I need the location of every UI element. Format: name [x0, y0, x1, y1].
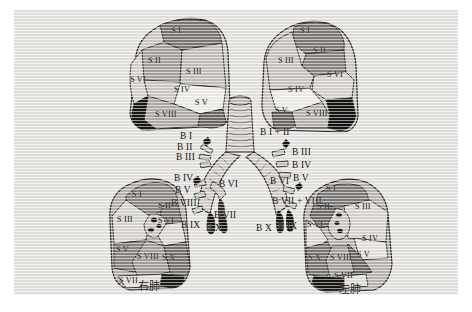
bronchus-label-left-3: B V [293, 174, 309, 183]
lung-anatomy-drawing [14, 10, 458, 295]
segment-label-upper-right-lung-2: S III [278, 57, 294, 65]
segment-label-lower-right-lung-7: S VIII [330, 254, 352, 262]
bronchus-label-right-6: B IX [181, 221, 200, 230]
bronchus-label-right-1: B II [177, 143, 193, 152]
bronchus-label-left-6: B IX [278, 222, 297, 231]
illustration-canvas: S IS IIS IIIS VIS IVS VS VIIIS IS IIS II… [14, 10, 458, 295]
segment-label-upper-left-lung-4: S IV [174, 86, 190, 94]
segment-label-upper-right-lung-0: S I [300, 27, 310, 35]
segment-label-lower-right-lung-2: S III [355, 203, 371, 211]
bronchus-label-right-3: B IV [174, 174, 193, 183]
segment-label-lower-left-lung-5: S VIII [137, 253, 159, 261]
segment-label-lower-right-lung-5: S V [357, 251, 370, 259]
segment-label-upper-right-lung-3: S VI [327, 71, 343, 79]
segment-label-upper-left-lung-0: S I [171, 27, 181, 35]
segment-label-lower-left-lung-1: S II [158, 202, 171, 210]
bronchus-label-right-0: B I [180, 132, 192, 141]
bronchus-label-left-2: B IV [292, 161, 311, 170]
bronchus-label-right-8: B VI [219, 180, 238, 189]
segment-label-lower-left-lung-2: S III [117, 216, 133, 224]
segment-label-upper-right-lung-1: S II [313, 47, 326, 55]
bronchus-label-right-5: B VIII [171, 199, 197, 208]
segment-label-upper-left-lung-2: S III [186, 68, 202, 76]
segment-label-lower-left-lung-0: S I [132, 191, 142, 199]
bronchus-label-left-1: B III [292, 148, 311, 157]
segment-label-upper-right-lung-5: S V [275, 107, 288, 115]
bronchus-label-left-4: B VI [270, 177, 289, 186]
segment-label-upper-left-lung-5: S V [195, 99, 208, 107]
segment-label-lower-left-lung-7: S VII [119, 277, 138, 285]
segment-label-lower-right-lung-6: S X [308, 254, 321, 262]
segment-label-upper-left-lung-1: S II [148, 57, 161, 65]
segment-label-lower-right-lung-8: S VII [334, 272, 353, 280]
segment-label-upper-left-lung-6: S VIII [155, 111, 177, 119]
segment-label-lower-right-lung-0: S I [326, 185, 336, 193]
segment-label-lower-left-lung-4: S V [116, 246, 129, 254]
lower-left-lung-shape [110, 179, 190, 290]
bronchus-label-right-9: B VII [214, 211, 236, 220]
segment-label-lower-left-lung-3: S VI [158, 217, 174, 225]
bronchus-label-left-0: B I + II [260, 128, 290, 137]
bronchus-label-right-2: B III [176, 153, 195, 162]
left-lung-caption: 左肺 [339, 284, 361, 295]
right-lung-caption: 右肺 [138, 281, 160, 292]
bronchus-label-right-4: B V [175, 186, 191, 195]
segment-label-upper-right-lung-6: S VIII [306, 110, 328, 118]
bronchus-label-left-5: B VII + VIII [272, 197, 322, 206]
segment-label-lower-left-lung-6: S X [162, 254, 175, 262]
segment-label-upper-left-lung-3: S VI [130, 76, 146, 84]
segment-label-upper-right-lung-4: S IV [288, 86, 304, 94]
bronchus-label-right-7: B X [206, 224, 222, 233]
segment-label-lower-right-lung-3: S VI [307, 221, 323, 229]
bronchus-label-left-7: B X [256, 224, 272, 233]
segment-label-lower-right-lung-4: S IV [362, 235, 378, 243]
